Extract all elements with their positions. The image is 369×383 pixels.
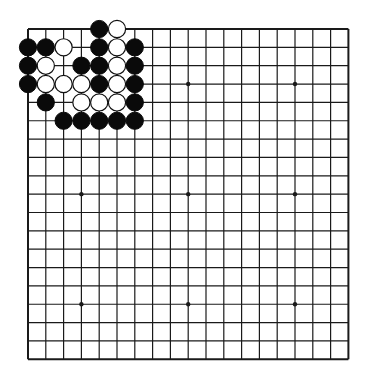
black-stone[interactable] [91, 112, 108, 129]
black-stone[interactable] [126, 57, 143, 74]
black-stone[interactable] [126, 39, 143, 56]
white-stone[interactable] [55, 39, 72, 56]
star-point [79, 192, 83, 196]
white-stone[interactable] [37, 75, 54, 92]
black-stone[interactable] [91, 57, 108, 74]
white-stone[interactable] [91, 94, 108, 111]
star-point [293, 192, 297, 196]
black-stone[interactable] [37, 39, 54, 56]
black-stone[interactable] [91, 39, 108, 56]
white-stone[interactable] [55, 75, 72, 92]
black-stone[interactable] [126, 75, 143, 92]
black-stone[interactable] [91, 75, 108, 92]
white-stone[interactable] [108, 57, 125, 74]
white-stone[interactable] [108, 94, 125, 111]
star-point [79, 302, 83, 306]
star-point [293, 82, 297, 86]
black-stone[interactable] [126, 94, 143, 111]
star-point [186, 302, 190, 306]
star-point [293, 302, 297, 306]
black-stone[interactable] [91, 20, 108, 37]
black-stone[interactable] [19, 75, 36, 92]
white-stone[interactable] [37, 57, 54, 74]
white-stone[interactable] [108, 20, 125, 37]
black-stone[interactable] [19, 39, 36, 56]
black-stone[interactable] [126, 112, 143, 129]
white-stone[interactable] [108, 39, 125, 56]
go-board[interactable] [0, 0, 369, 383]
black-stone[interactable] [73, 57, 90, 74]
star-point [186, 192, 190, 196]
black-stone[interactable] [19, 57, 36, 74]
black-stone[interactable] [108, 112, 125, 129]
white-stone[interactable] [73, 94, 90, 111]
star-point [186, 82, 190, 86]
black-stone[interactable] [73, 112, 90, 129]
white-stone[interactable] [73, 75, 90, 92]
white-stone[interactable] [108, 75, 125, 92]
black-stone[interactable] [55, 112, 72, 129]
black-stone[interactable] [37, 94, 54, 111]
